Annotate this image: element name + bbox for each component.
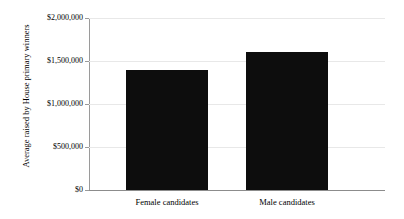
y-axis-tick-label-text: $1,000,000 — [47, 99, 83, 108]
x-axis-baseline — [89, 190, 385, 191]
y-axis-tick-label-text: $500,000 — [53, 142, 83, 151]
y-axis-tick-label-text: $1,500,000 — [47, 56, 83, 65]
x-axis-tick-label: Male candidates — [217, 196, 357, 208]
bar-chart: Average raised by House primary winners … — [0, 0, 404, 219]
y-axis-tick-mark — [85, 104, 89, 105]
y-axis-tick-labels: $0$500,000$1,000,000$1,500,000$2,000,000 — [0, 18, 83, 190]
y-axis-tick-label-text: $0 — [75, 185, 83, 194]
y-axis-tick-mark — [85, 18, 89, 19]
gridline — [89, 61, 385, 62]
x-axis-tick-label: Female candidates — [97, 196, 237, 208]
plot-area — [89, 18, 385, 190]
bar[interactable] — [246, 52, 328, 190]
y-axis-tick-mark — [85, 190, 89, 191]
bar[interactable] — [126, 70, 208, 190]
y-axis-tick-mark — [85, 147, 89, 148]
gridline — [89, 18, 385, 19]
y-axis-tick-mark — [85, 61, 89, 62]
y-axis-tick-label-text: $2,000,000 — [47, 13, 83, 22]
